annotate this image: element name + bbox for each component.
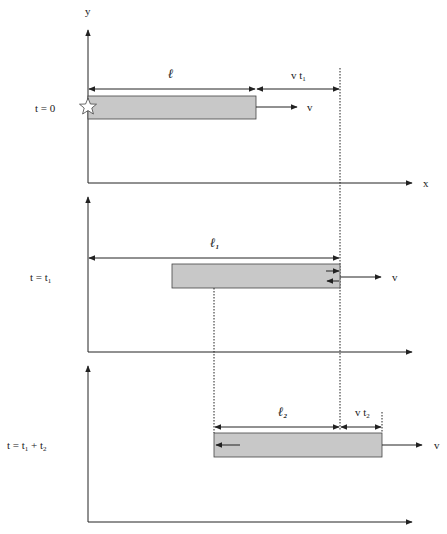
velocity-label: v (307, 101, 313, 113)
rod (88, 96, 256, 119)
relativity-rod-diagram: y x t = 0 ℓ v t1 v t = t1 ℓ1 v (0, 0, 447, 534)
panel-t1: t = t1 ℓ1 v (30, 197, 412, 352)
panel-t0: y x t = 0 ℓ v t1 v (35, 5, 429, 189)
time-label: t = t1 (30, 271, 52, 285)
velocity-label: v (434, 439, 440, 451)
x-axis-label: x (423, 177, 429, 189)
length-label: ℓ1 (210, 235, 219, 251)
y-axis-label: y (85, 5, 91, 17)
panel-t1-plus-t2: t = t1 + t2 ℓ2 v t2 v (7, 366, 440, 522)
offset-label: v t1 (291, 69, 306, 83)
length-label: ℓ (168, 66, 174, 81)
rod (172, 264, 340, 288)
time-label: t = t1 + t2 (7, 439, 47, 453)
velocity-label: v (392, 271, 398, 283)
length-label: ℓ2 (278, 404, 288, 420)
offset-label: v t2 (355, 406, 370, 420)
time-label: t = 0 (35, 102, 56, 114)
